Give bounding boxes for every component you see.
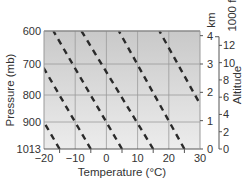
y-tick-label: 900 [23,116,41,128]
plot-background [44,31,200,149]
x-tick-label: 0 [103,152,109,164]
x-axis-title: Temperature (°C) [78,166,166,178]
y-tick-label: 600 [23,25,41,37]
right-axis-kft-unit: 1000 ft [226,0,238,32]
y-tick-label: 800 [23,89,41,101]
km-tick-label: 3 [207,58,213,70]
km-tick-label: 2 [207,86,213,98]
chart: −20−100102030 6007008009001013 01234 024… [0,0,249,190]
x-tick-label: 30 [194,152,206,164]
y-axis-title: Pressure (mb) [4,53,16,126]
x-tick-labels: −20−100102030 [35,152,206,164]
x-tick-label: 10 [131,152,143,164]
x-tick-label: −10 [66,152,85,164]
km-tick-labels: 01234 [207,30,213,155]
kft-tick-label: 6 [223,91,229,103]
x-tick-label: 20 [163,152,175,164]
kft-tick-label: 4 [223,108,229,120]
y-tick-labels: 6007008009001013 [17,25,41,155]
right-axis-title: Altitude [231,66,243,104]
km-tick-label: 1 [207,115,213,127]
right-axis-km-unit: km [205,12,217,27]
kft-tick-label: 8 [223,74,229,86]
y-tick-label: 1013 [17,143,41,155]
y-tick-label: 700 [23,58,41,70]
kft-tick-label: 12 [223,39,235,51]
kft-tick-label: 0 [223,143,229,155]
kft-tick-label: 2 [223,126,229,138]
km-tick-label: 4 [207,30,213,42]
km-tick-label: 0 [207,143,213,155]
